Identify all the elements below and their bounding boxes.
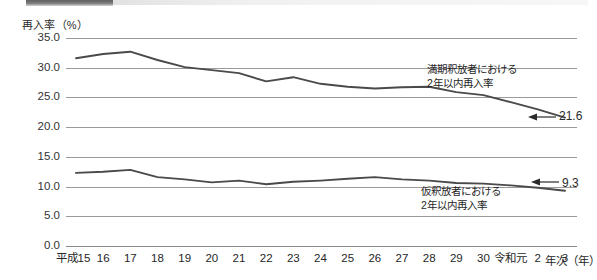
annotation-upper-line1: 満期釈放者における [427,63,517,77]
callout-arrow-lower [531,178,559,185]
x-axis-unit-label: 年次（年） [545,252,597,268]
x-tick-label-0: 平成15 [50,252,96,264]
annotation-lower-line1: 仮釈放者における [421,185,501,199]
x-tick-label-7: 22 [254,252,278,264]
x-tick-label-1: 16 [91,252,115,264]
recidivism-rate-line-chart: 再入率（%） 0.05.010.015.020.025.030.035.0 平成… [0,0,597,280]
x-tick-label-8: 23 [281,252,305,264]
end-value-label-full-term: 21.6 [559,110,582,122]
x-tick-label-10: 25 [336,252,360,264]
x-tick-label-14: 29 [444,252,468,264]
x-tick-label-3: 18 [146,252,170,264]
x-tick-label-2: 17 [118,252,142,264]
x-tick-label-5: 20 [200,252,224,264]
x-tick-label-12: 27 [390,252,414,264]
series-layer [0,0,597,280]
x-tick-label-9: 24 [309,252,333,264]
annotation-parole-release: 仮釈放者における 2年以内再入率 [421,185,501,212]
x-tick-label-13: 28 [417,252,441,264]
end-value-label-parole: 9.3 [562,177,579,189]
x-tick-label-4: 19 [173,252,197,264]
x-tick-label-6: 21 [227,252,251,264]
annotation-lower-line2: 2年以内再入率 [421,199,501,213]
annotation-upper-line2: 2年以内再入率 [427,77,517,91]
x-tick-label-11: 26 [363,252,387,264]
annotation-full-term-release: 満期釈放者における 2年以内再入率 [427,63,517,90]
